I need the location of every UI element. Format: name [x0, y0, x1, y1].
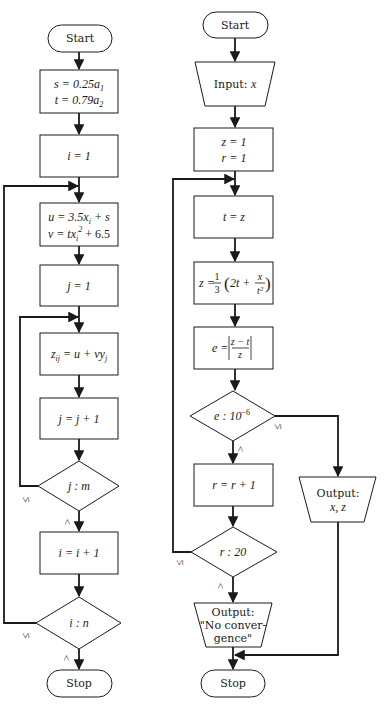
converged-arrow	[275, 416, 338, 476]
v-tail: + 6.5	[82, 227, 110, 241]
j-inc-label: j = j + 1	[57, 412, 100, 426]
flowcharts-canvas: Start s = 0.25a1 t = 0.79a2 i = 1 u = 3.…	[0, 0, 388, 707]
z-update-inner-den: t²	[257, 285, 264, 296]
svg-text:): )	[265, 274, 271, 293]
left-stop-terminal: Stop	[47, 670, 112, 697]
z-update-frac-num: 1	[215, 271, 220, 282]
svg-text:t = 0.79a2: t = 0.79a2	[55, 93, 103, 109]
output-result-vars: x, z	[329, 500, 346, 514]
z-update-inner-num: x	[257, 271, 263, 282]
z-update-lhs: z =	[198, 276, 215, 290]
j-test-gt-label: >	[61, 519, 73, 525]
svg-text:Input: x: Input: x	[214, 77, 257, 91]
left-init-st-box: s = 0.25a1 t = 0.79a2	[40, 70, 118, 113]
input-var: x	[250, 77, 257, 91]
svg-text:s = 0.25a1: s = 0.25a1	[54, 77, 104, 93]
right-e-box: e = z − t z	[194, 327, 273, 369]
e-test-le-label: ≤	[271, 424, 283, 430]
r-inc-label: r = r + 1	[212, 478, 256, 492]
r-test-gt-label: >	[214, 583, 226, 589]
init-s-sub: 1	[100, 84, 104, 93]
right-start-terminal: Start	[203, 12, 268, 38]
z-update-body: 2t +	[230, 276, 250, 290]
output-noconv-line2: "No conver-	[200, 619, 267, 632]
u-tail: + s	[91, 210, 110, 224]
v-sub: i	[76, 234, 78, 243]
r-test-label: r : 20	[220, 545, 247, 559]
init-t-sub: 2	[99, 100, 103, 109]
output-result-label: Output:	[317, 487, 360, 500]
left-j-inc-box: j = j + 1	[40, 398, 118, 439]
z-tail: = u + vy	[60, 347, 106, 361]
input-label: Input:	[214, 78, 251, 91]
e-num: z − t	[230, 336, 250, 347]
left-i-test-diamond: i : n ≤ >	[19, 597, 121, 661]
right-r-test-diamond: r : 20 ≤ >	[173, 527, 277, 589]
e-test-exp: −6	[241, 408, 250, 417]
left-j-init-box: j = 1	[40, 265, 118, 306]
z-update-frac-den: 3	[215, 284, 220, 295]
e-lhs: e =	[212, 341, 228, 355]
r-test-le-label: ≤	[173, 560, 185, 566]
right-stop-label: Stop	[220, 677, 246, 690]
init-z-label: z = 1	[221, 135, 247, 149]
init-r-label: r = 1	[222, 151, 247, 165]
right-output-result-box: Output: x, z	[299, 477, 376, 522]
j-test-le-label: ≤	[19, 497, 31, 503]
right-t-assign-box: t = z	[194, 196, 273, 238]
e-den: z	[237, 349, 242, 360]
svg-text:u = 3.5xi + s: u = 3.5xi + s	[48, 210, 110, 226]
right-input-box: Input: x	[195, 62, 275, 106]
right-flowchart: Start Input: x z = 1 r = 1 t = z z =	[173, 12, 376, 697]
left-start-label: Start	[66, 32, 95, 45]
u-expr: u = 3.5x	[48, 210, 89, 224]
right-e-test-diamond: e : 10−6 ≤ >	[190, 391, 283, 452]
left-i-init-box: i = 1	[40, 135, 118, 177]
left-stop-label: Stop	[66, 677, 92, 690]
init-t-expr: t = 0.79a	[55, 93, 99, 107]
e-test-gt-label: >	[234, 446, 246, 452]
right-init-zr-box: z = 1 r = 1	[194, 128, 273, 171]
init-s-expr: s = 0.25a	[54, 77, 100, 91]
t-assign-label: t = z	[223, 210, 245, 224]
right-r-inc-box: r = r + 1	[194, 464, 273, 506]
right-start-label: Start	[221, 19, 250, 32]
i-test-gt-label: >	[60, 655, 72, 661]
output-noconv-line1: Output:	[212, 606, 255, 619]
v-expr: v = tx	[48, 227, 77, 241]
e-test-label: e : 10	[214, 409, 241, 423]
left-start-terminal: Start	[48, 25, 112, 52]
left-uv-box: u = 3.5xi + s v = txi2 + 6.5	[40, 203, 118, 246]
left-zij-box: zij = u + vyj	[40, 333, 118, 375]
i-inc-label: i = i + 1	[59, 546, 100, 560]
left-flowchart: Start s = 0.25a1 t = 0.79a2 i = 1 u = 3.…	[4, 25, 121, 697]
j-test-label: j : m	[66, 479, 90, 493]
right-z-update-box: z = 1 3 ( 2t + x t² )	[194, 262, 273, 304]
right-output-noconv-box: Output: "No conver- gence"	[194, 603, 272, 647]
i-test-label: i : n	[69, 616, 88, 630]
i-test-le-label: ≤	[19, 633, 31, 639]
i-init-label: i = 1	[67, 149, 90, 163]
left-i-inc-box: i = i + 1	[40, 532, 118, 574]
j-init-label: j = 1	[65, 279, 90, 293]
left-j-test-diamond: j : m ≤ >	[19, 461, 119, 525]
right-stop-terminal: Stop	[201, 670, 265, 697]
output-noconv-line3: gence"	[214, 632, 252, 645]
